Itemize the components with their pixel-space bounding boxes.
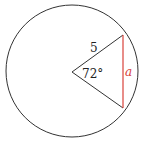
- radius-label: 5: [90, 41, 98, 55]
- angle-label: 72°: [82, 67, 103, 81]
- chord-label: a: [125, 65, 132, 79]
- circle-diagram: 5 72° a: [0, 0, 146, 143]
- circle: [6, 5, 138, 137]
